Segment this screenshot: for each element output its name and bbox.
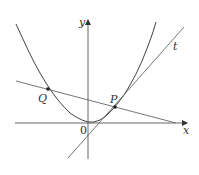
parabola-curve-path xyxy=(16,22,156,122)
point-q-dot xyxy=(46,87,50,91)
parabola-tangent-diagram: y x 0 Q P t xyxy=(0,0,199,175)
point-p-label: P xyxy=(109,93,118,106)
origin-label: 0 xyxy=(80,124,87,137)
tangent-line-t xyxy=(68,27,184,158)
y-axis-label: y xyxy=(78,16,86,29)
tangent-label-t: t xyxy=(173,40,178,53)
diagram-canvas: y x 0 Q P t xyxy=(0,0,199,175)
x-axis-label: x xyxy=(183,124,190,137)
point-q-label: Q xyxy=(38,92,47,105)
